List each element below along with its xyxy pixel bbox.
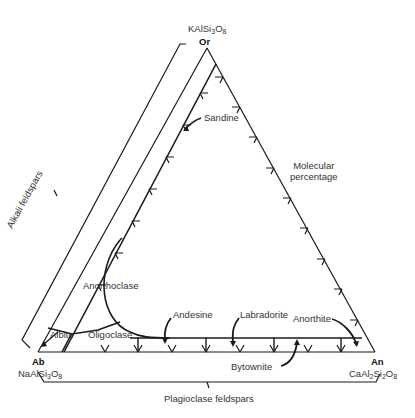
triangle-left-edge [38,48,207,352]
bytownite-arrow [281,343,297,366]
label-oligoclase: Oligoclase [88,330,132,340]
molecular-percentage-label: Molecular percentage [290,160,338,182]
andesine-arrow [165,318,171,340]
label-bytownite: Bytownite [231,362,272,372]
plagioclase-bracket [38,372,380,382]
label-anorthoclase: Anorthoclase [83,281,138,291]
labradorite-arrow [233,318,239,343]
triangle-right-edge [207,48,375,352]
label-labradorite: Labradorite [240,310,288,320]
ab-formula: NaAlSi3O8 [18,369,62,380]
alkali-bracket [22,44,186,348]
plagioclase-feldspars-label: Plagioclase feldspars [164,394,254,404]
anorthite-arrow [332,319,356,343]
or-symbol: Or [199,37,210,47]
label-andesine: Andesine [173,310,213,320]
label-albite: Albite [50,330,74,340]
ab-symbol: Ab [32,357,45,367]
label-anorthite: Anorthite [293,314,331,324]
label-sandine: Sandine [204,113,239,123]
or-formula: KAlSi3O8 [188,24,226,35]
ternary-diagram [0,0,415,418]
an-formula: CaAl2Si2O8 [349,369,397,380]
an-symbol: An [371,357,384,367]
